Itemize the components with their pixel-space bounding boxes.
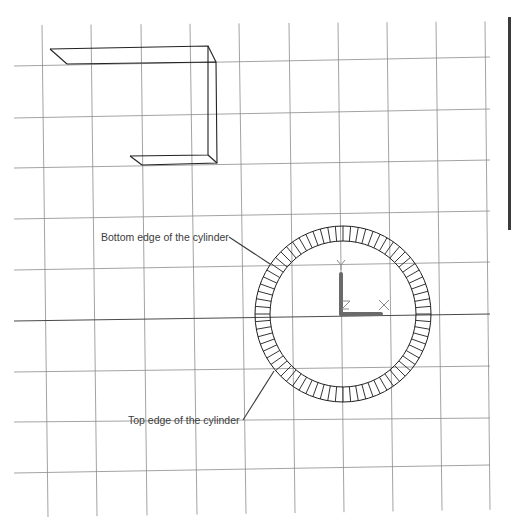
cylinder-segment [320,229,324,243]
c-shape-depth-edge [50,49,67,64]
cylinder-segment [416,320,431,321]
cylinder-segment [271,356,283,365]
cylinder-segment [349,387,350,402]
cylinder-segment [286,247,296,258]
cylinder-segment [403,264,415,273]
cylinder-segment [276,361,287,371]
cylinder-segment [409,345,423,351]
ucs-icon [337,260,389,314]
cylinder-segment [267,351,280,359]
cylinder-segment [399,361,410,371]
cylinder-segment [406,270,419,278]
grid-line-vertical [42,25,48,517]
cylinder-segment [414,291,428,295]
grid-line-vertical [485,21,490,509]
cylinder-segment [395,252,406,263]
grid-line-horizontal [14,160,490,168]
cylinder-segment [271,264,283,273]
bottom-edge-label: Bottom edge of the cylinder [101,231,229,243]
top-edge-leader-line [243,371,274,420]
cylinder-segment [415,327,430,330]
cylinder-segment [313,231,318,245]
grid-line-vertical [436,22,442,511]
grid-line-vertical [190,24,197,515]
cylinder-segment [414,333,428,337]
top-edge-label: Top edge of the cylinder [128,414,240,426]
grid-line-horizontal [14,366,490,372]
cylinder-segment [409,277,423,283]
cylinder-segment [299,377,307,390]
cylinder-segment [374,380,380,394]
cylinder-segment [260,284,274,289]
cylinder-segment [255,320,270,321]
drawing-viewport[interactable]: Bottom edge of the cylinder Top edge of … [0,0,511,528]
cylinder-segment [356,386,359,401]
cylinder-segment [306,234,312,248]
cylinder-segment [306,380,312,394]
cylinder-segment [260,339,274,344]
cylinder-segment [403,356,415,365]
cylinder-segment [390,247,400,258]
cylinder-segment [328,227,331,242]
drawing-canvas[interactable]: Bottom edge of the cylinder Top edge of … [0,0,511,528]
cylinder-segment [258,333,272,337]
cylinder-segment [368,231,373,245]
cylinder-segment [293,242,302,254]
cylinder-segment [406,351,419,359]
cylinder-segment [299,238,307,251]
cylinder-segment [320,385,324,399]
cylinder-segment [328,386,331,401]
cylinder-segment [256,299,271,302]
cylinder-segment [416,306,431,307]
grid-line-vertical [289,23,295,513]
grid-line-horizontal [14,109,490,118]
cylinder-segment [380,238,388,251]
grid-line-vertical [141,24,147,515]
cylinder-segment [385,242,394,254]
grid-line-vertical [239,23,246,513]
cylinder-segment [362,229,366,243]
grid-line-horizontal [14,465,490,473]
c-shape-depth-edge [130,156,142,165]
cylinder-segment [263,345,277,351]
cylinder-segment [412,339,426,344]
grid-line-horizontal [14,211,490,219]
cylinder-segment [412,284,426,289]
grid-line-horizontal [14,418,490,422]
cylinder-segment [281,252,292,263]
grid-line-vertical [91,25,97,517]
c-shape-depth-edge [208,46,216,62]
cylinder-segment [256,327,271,330]
cylinder-segment [362,385,366,399]
annotations: Bottom edge of the cylinder Top edge of … [101,231,274,426]
cylinder-segment [286,370,296,381]
cylinder-segment [255,306,270,307]
cylinder-segment [267,270,280,278]
cylinder-segment [335,387,336,402]
grid-line-horizontal [14,314,490,321]
cylinder-segment [263,277,277,283]
cylinder-segment [356,227,359,242]
cylinder-segment [335,226,336,241]
cylinder-segment [415,299,430,302]
grid-line-vertical [387,22,393,511]
cylinder-segment [368,383,373,397]
cylinder-segment [399,257,410,267]
grid-line-horizontal [14,57,490,66]
cylinder-segment [281,366,292,377]
cylinder-segment [313,383,318,397]
c-shape-depth-edge [208,155,217,163]
ucs-z-label-icon [342,301,350,309]
cylinder-segment [374,234,380,248]
cylinder-segment [385,374,394,386]
cylinder-segment [258,291,272,295]
bottom-edge-leader-line [229,237,270,264]
cylinder-segment [380,377,388,390]
cylinder-segment [349,226,350,241]
cylinder-segment [293,374,302,386]
ucs-x-label-icon [379,300,389,310]
